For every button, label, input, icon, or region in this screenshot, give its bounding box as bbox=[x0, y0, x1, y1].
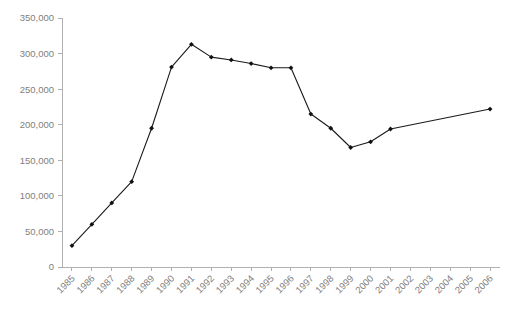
data-point-marker bbox=[269, 65, 274, 70]
x-tick-label: 1993 bbox=[213, 273, 236, 296]
x-tick-label: 1986 bbox=[74, 273, 97, 296]
data-point-marker bbox=[488, 107, 493, 112]
x-tick-label: 2000 bbox=[353, 273, 376, 296]
y-tick-label: 0 bbox=[49, 261, 54, 272]
y-tick-label: 100,000 bbox=[20, 190, 54, 201]
x-tick-label: 1985 bbox=[54, 273, 77, 296]
x-tick-label: 1990 bbox=[154, 273, 177, 296]
x-axis: 1985198619871988198919901991199219931994… bbox=[54, 267, 500, 295]
series-line-path bbox=[72, 44, 490, 245]
y-tick-label: 50,000 bbox=[25, 226, 54, 237]
x-tick-label: 1998 bbox=[313, 273, 336, 296]
x-tick-label: 2001 bbox=[373, 273, 396, 296]
x-tick-label: 2002 bbox=[393, 273, 416, 296]
x-tick-label: 1991 bbox=[174, 273, 197, 296]
x-tick-label: 1997 bbox=[293, 273, 316, 296]
x-tick-label: 1992 bbox=[194, 273, 217, 296]
y-axis: 050,000100,000150,000200,000250,000300,0… bbox=[20, 12, 62, 272]
x-tick-group: 1985198619871988198919901991199219931994… bbox=[54, 267, 495, 295]
x-tick-label: 1999 bbox=[333, 273, 356, 296]
x-tick-label: 1988 bbox=[114, 273, 137, 296]
y-tick-label: 150,000 bbox=[20, 155, 54, 166]
chart-canvas: 050,000100,000150,000200,000250,000300,0… bbox=[0, 0, 513, 309]
x-tick-label: 1989 bbox=[134, 273, 157, 296]
y-tick-label: 350,000 bbox=[20, 12, 54, 23]
y-tick-label: 250,000 bbox=[20, 84, 54, 95]
data-point-marker bbox=[229, 58, 234, 63]
data-point-marker bbox=[289, 65, 294, 70]
y-tick-label: 300,000 bbox=[20, 48, 54, 59]
y-tick-label: 200,000 bbox=[20, 119, 54, 130]
series-marker-group bbox=[70, 42, 493, 248]
data-series-group bbox=[70, 42, 493, 248]
x-tick-label: 1995 bbox=[253, 273, 276, 296]
x-tick-label: 1996 bbox=[273, 273, 296, 296]
x-tick-label: 2006 bbox=[472, 273, 495, 296]
data-point-marker bbox=[149, 126, 154, 131]
x-tick-label: 1994 bbox=[233, 273, 256, 296]
x-tick-label: 2005 bbox=[452, 273, 475, 296]
line-chart: 050,000100,000150,000200,000250,000300,0… bbox=[0, 0, 513, 309]
data-point-marker bbox=[249, 61, 254, 66]
x-tick-label: 1987 bbox=[94, 273, 117, 296]
y-tick-group: 050,000100,000150,000200,000250,000300,0… bbox=[20, 12, 62, 272]
x-tick-label: 2003 bbox=[413, 273, 436, 296]
x-tick-label: 2004 bbox=[432, 273, 455, 296]
